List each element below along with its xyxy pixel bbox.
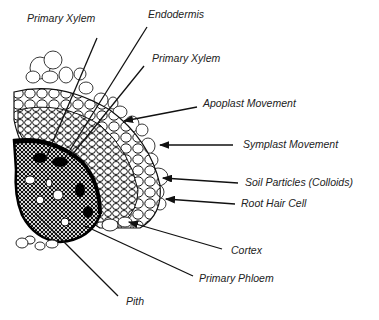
label-primary-phloem: Primary Phloem <box>199 272 274 284</box>
leader-line-root-hair-cell <box>166 199 235 204</box>
label-soil-particles: Soil Particles (Colloids) <box>245 176 353 188</box>
leader-line-cortex <box>129 222 222 249</box>
label-primary-xylem-1: Primary Xylem <box>27 12 95 24</box>
leader-line-soil-particles <box>163 178 238 183</box>
root-cell-illustration <box>0 0 379 320</box>
label-pith: Pith <box>126 295 144 307</box>
label-endodermis: Endodermis <box>148 8 204 20</box>
label-cortex: Cortex <box>231 244 262 256</box>
leader-line-apoplast-movement <box>124 107 197 121</box>
label-root-hair-cell: Root Hair Cell <box>241 197 306 209</box>
root-cross-section-diagram: Primary Xylem Endodermis Primary Xylem A… <box>0 0 379 320</box>
label-apoplast-movement: Apoplast Movement <box>203 97 296 109</box>
leader-line-primary-phloem <box>85 226 193 276</box>
label-primary-xylem-2: Primary Xylem <box>152 52 220 64</box>
label-symplast-movement: Symplast Movement <box>243 138 338 150</box>
